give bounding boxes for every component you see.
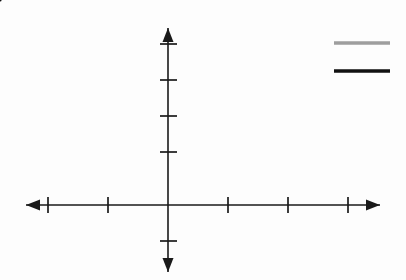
x-axis-arrow-right <box>366 200 380 211</box>
x-axis-arrow-left <box>26 200 40 211</box>
y-axis-arrow-down <box>163 258 174 272</box>
coordinate-plot <box>0 0 406 280</box>
y-axis-arrow-up <box>163 28 174 42</box>
graph-figure <box>0 0 406 280</box>
